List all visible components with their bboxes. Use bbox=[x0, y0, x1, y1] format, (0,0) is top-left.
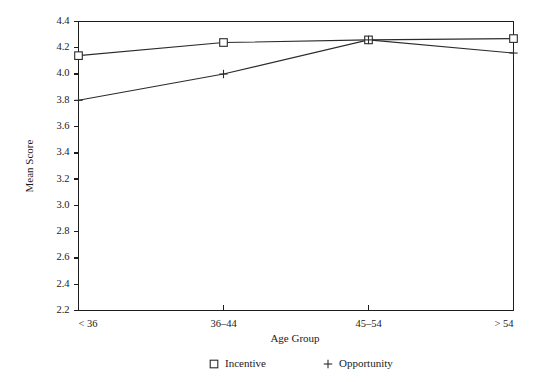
marker-opportunity bbox=[219, 70, 227, 78]
series-line-opportunity bbox=[79, 40, 514, 100]
y-tick-label: 3.6 bbox=[56, 120, 69, 131]
plot-frame bbox=[79, 22, 514, 311]
series-lines bbox=[79, 39, 514, 101]
y-tick-label: 2.8 bbox=[56, 225, 69, 236]
y-axis-title: Mean Score bbox=[23, 139, 35, 192]
x-axis-title: Age Group bbox=[270, 332, 320, 344]
line-chart: 2.22.42.62.83.03.23.43.63.84.04.24.4 < 3… bbox=[0, 0, 538, 382]
legend-plus-icon bbox=[324, 360, 332, 368]
x-tick-label: 45–54 bbox=[355, 318, 382, 329]
y-tick-label: 3.0 bbox=[56, 199, 69, 210]
marker-opportunity bbox=[74, 96, 82, 104]
y-tick-label: 3.2 bbox=[56, 173, 69, 184]
marker-incentive bbox=[510, 35, 518, 43]
x-tick-label: < 36 bbox=[79, 318, 98, 329]
y-axis-tick-labels: 2.22.42.62.83.03.23.43.63.84.04.24.4 bbox=[56, 15, 70, 315]
y-tick-label: 2.4 bbox=[56, 278, 70, 289]
y-tick-label: 4.0 bbox=[56, 67, 69, 78]
x-axis-tick-labels: < 3636–4445–54> 54 bbox=[79, 318, 515, 329]
y-tick-label: 2.2 bbox=[56, 304, 69, 315]
y-tick-label: 4.2 bbox=[56, 41, 69, 52]
y-tick-label: 4.4 bbox=[56, 15, 70, 26]
x-tick-label: 36–44 bbox=[210, 318, 237, 329]
legend-square-icon bbox=[210, 360, 218, 368]
y-tick-label: 3.4 bbox=[56, 146, 70, 157]
legend-label: Opportunity bbox=[339, 357, 393, 369]
legend-item-opportunity: Opportunity bbox=[324, 357, 393, 369]
axis-frame bbox=[79, 22, 514, 311]
marker-opportunity bbox=[509, 49, 517, 57]
marker-incentive bbox=[220, 39, 228, 47]
legend-label: Incentive bbox=[225, 357, 266, 369]
chart-container: 2.22.42.62.83.03.23.43.63.84.04.24.4 < 3… bbox=[0, 0, 538, 382]
x-tick-label: > 54 bbox=[494, 318, 514, 329]
legend-item-incentive: Incentive bbox=[210, 357, 266, 369]
series-markers bbox=[74, 35, 517, 105]
y-tick-label: 2.6 bbox=[56, 251, 69, 262]
chart-legend: IncentiveOpportunity bbox=[210, 357, 393, 369]
marker-incentive bbox=[75, 52, 83, 60]
x-axis-ticks bbox=[79, 305, 514, 311]
y-tick-label: 3.8 bbox=[56, 94, 69, 105]
